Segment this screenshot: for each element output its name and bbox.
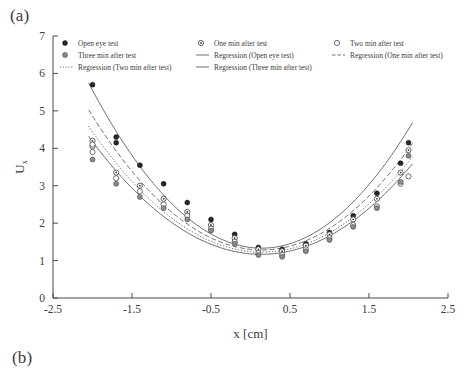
legend-entry: Regression (Two min after test) <box>60 63 172 72</box>
scatter-plot: 01234567-2.5-1.5-0.50.51.52.5 x [cm]Ux O… <box>0 0 471 345</box>
data-point <box>374 191 379 196</box>
data-point <box>406 140 411 145</box>
y-axis-tick-label: 7 <box>39 30 45 42</box>
legend-label: Regression (Two min after test) <box>78 63 172 72</box>
axes-group: 01234567-2.5-1.5-0.50.51.52.5 <box>39 30 455 315</box>
data-points-group <box>90 82 411 259</box>
x-axis-tick-label: 2.5 <box>441 303 456 315</box>
legend-label: One min after test <box>214 39 268 48</box>
regression-curve <box>89 136 413 254</box>
regression-lines-group <box>89 83 413 254</box>
data-point <box>351 217 356 222</box>
data-point <box>137 183 142 188</box>
data-point <box>256 252 261 257</box>
panel-label-a: (a) <box>10 6 29 26</box>
data-point <box>185 200 190 205</box>
data-point <box>114 176 119 181</box>
regression-curve <box>89 126 413 252</box>
data-point <box>406 148 411 153</box>
legend-entry: Open eye test <box>63 39 120 48</box>
data-series <box>90 82 411 252</box>
figure-panel-a: (a) (b) 01234567-2.5-1.5-0.50.51.52.5 x … <box>0 0 471 380</box>
y-axis-tick-label: 2 <box>39 217 45 229</box>
data-point <box>327 237 332 242</box>
data-point <box>374 196 379 201</box>
data-point <box>114 135 119 140</box>
x-axis-tick-label: 0.5 <box>283 303 298 315</box>
x-axis-tick-label: -1.5 <box>123 303 141 315</box>
data-point <box>185 217 190 222</box>
data-point <box>280 254 285 259</box>
y-axis-tick-label: 4 <box>39 142 45 154</box>
data-point <box>161 196 166 201</box>
data-point <box>398 170 403 175</box>
legend-entry: Two min after test <box>334 39 404 48</box>
panel-label-b: (b) <box>12 348 32 368</box>
data-point <box>114 181 119 186</box>
data-point <box>137 194 142 199</box>
data-point <box>351 224 356 229</box>
legend-entry: One min after test <box>198 39 268 48</box>
data-point <box>90 142 95 147</box>
regression-curve <box>89 83 413 248</box>
y-axis-tick-label: 5 <box>39 105 45 117</box>
legend-entry: Regression (Open eye test) <box>196 51 294 60</box>
y-axis-tick-label: 1 <box>39 255 45 267</box>
data-point <box>90 82 95 87</box>
y-axis-tick-label: 6 <box>39 67 45 79</box>
data-point <box>90 157 95 162</box>
legend-label: Regression (Open eye test) <box>214 51 294 60</box>
chart-legend: Open eye testOne min after testTwo min a… <box>60 39 443 72</box>
data-point <box>374 206 379 211</box>
data-point <box>232 241 237 246</box>
data-point <box>398 179 403 184</box>
data-point <box>209 228 214 233</box>
legend-entry: Three min after test <box>63 51 138 60</box>
data-point <box>398 161 403 166</box>
data-point <box>114 140 119 145</box>
y-axis-tick-label: 3 <box>39 180 45 192</box>
legend-entry: Regression (Three min after test) <box>196 63 312 72</box>
data-point <box>303 249 308 254</box>
legend-label: Regression (Three min after test) <box>214 63 312 72</box>
data-point <box>137 163 142 168</box>
data-point <box>137 189 142 194</box>
legend-label: Open eye test <box>78 39 119 48</box>
x-axis-tick-label: 1.5 <box>362 303 377 315</box>
data-point <box>406 174 411 179</box>
legend-label: Regression (One min after test) <box>350 51 443 60</box>
data-series <box>90 153 411 259</box>
y-axis-label-subscript: x <box>20 160 29 164</box>
data-point <box>114 170 119 175</box>
legend-label: Three min after test <box>78 51 137 60</box>
data-point <box>161 181 166 186</box>
data-point <box>406 153 411 158</box>
legend-label: Two min after test <box>350 39 405 48</box>
y-axis-label: Ux <box>12 160 29 173</box>
data-series <box>90 142 411 258</box>
data-point <box>90 149 95 154</box>
data-point <box>161 206 166 211</box>
regression-curve <box>89 110 413 250</box>
data-point <box>209 217 214 222</box>
x-axis-label: x [cm] <box>233 326 267 341</box>
legend-entry: Regression (One min after test) <box>332 51 443 60</box>
x-axis-tick-label: -2.5 <box>44 303 62 315</box>
x-axis-tick-label: -0.5 <box>202 303 220 315</box>
